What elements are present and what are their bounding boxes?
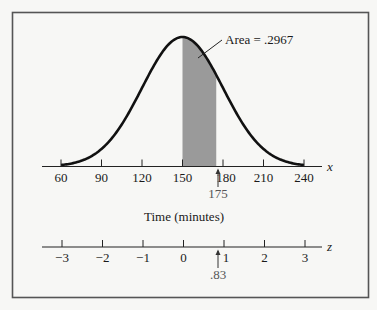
z-marker-label: .83 [210,267,226,282]
x-tick-label: 210 [254,170,274,185]
x-tick-label: 90 [95,170,108,185]
z-axis: −3−2−10123 z .83 [42,239,332,282]
z-marker-arrow-icon [216,250,221,256]
x-tick-label: 60 [55,170,68,185]
x-marker-label: 175 [208,186,228,201]
x-tick-label: 150 [173,170,193,185]
x-variable-label: x [326,159,333,174]
z-tick-label: 3 [302,250,309,265]
x-axis-title: Time (minutes) [144,209,224,224]
normal-distribution-figure: Area = .2967 6090120150180210240 x 175 T… [0,0,377,310]
z-tick-label: 2 [261,250,268,265]
z-variable-label: z [326,239,332,254]
z-tick-label: −2 [96,250,110,265]
x-tick-label: 120 [132,170,152,185]
x-tick-label: 240 [294,170,314,185]
z-tick-label: −3 [55,250,69,265]
z-tick-label: −1 [136,250,150,265]
z-tick-label: 1 [223,250,230,265]
z-tick-label: 0 [180,250,187,265]
area-annotation: Area = .2967 [225,32,294,47]
